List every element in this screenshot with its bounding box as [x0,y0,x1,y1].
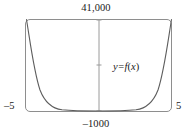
annotation-operator: = [118,61,125,72]
graph-figure: 41,000 –1000 –5 5 y=f(x) [0,0,192,139]
function-annotation: y=f(x) [113,62,139,73]
annotation-close-paren: ) [136,61,140,72]
annotation-lhs: y [113,61,118,72]
plot-canvas [0,0,192,139]
